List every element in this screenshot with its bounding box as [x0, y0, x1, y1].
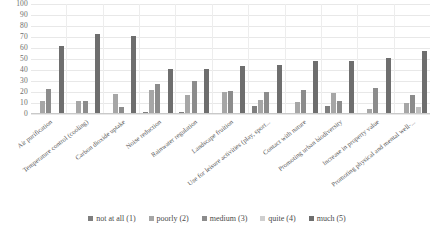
legend-label: poorly (2) [157, 214, 189, 223]
y-axis-tick-label: 50 [20, 55, 28, 63]
x-axis-label-slot: Promoting physical and mental well-... [394, 116, 430, 202]
bar [386, 58, 391, 114]
bar [59, 46, 64, 114]
legend-item[interactable]: poorly (2) [149, 214, 189, 223]
y-axis-tick-label: 90 [20, 11, 28, 19]
bar [192, 81, 197, 114]
bar [410, 95, 415, 114]
y-axis-tick-label: 20 [20, 88, 28, 96]
y-axis-tick-label: 10 [20, 99, 28, 107]
y-axis-tick-label: 100 [16, 0, 28, 8]
y-axis-tick-label: 0 [24, 110, 28, 118]
bar-chart: 1009080706050403020100 Air purificationT… [0, 0, 434, 236]
bar-group [322, 4, 358, 114]
x-axis-label-slot: Rainwater regulation [176, 116, 212, 202]
bar-group [104, 4, 140, 114]
bar [240, 66, 245, 114]
gridline [31, 114, 430, 115]
y-axis-tick-label: 30 [20, 77, 28, 85]
bar [204, 69, 209, 114]
y-axis-tick-label: 60 [20, 44, 28, 52]
bar [222, 92, 227, 114]
bar [95, 34, 100, 114]
bar [149, 90, 154, 114]
bar [185, 95, 190, 114]
bar [349, 61, 354, 114]
bar-group [31, 4, 67, 114]
x-axis-label-slot: Noise reduction [140, 116, 176, 202]
plot-area: 1009080706050403020100 [0, 4, 434, 128]
y-axis-tick-label: 40 [20, 66, 28, 74]
bar [131, 36, 136, 114]
x-axis-label-slot: Use for leisure activities (play, sport.… [249, 116, 285, 202]
plot-canvas [31, 4, 430, 114]
y-axis-tick-label: 80 [20, 22, 28, 30]
bar [168, 69, 173, 114]
bar [277, 65, 282, 115]
bar [228, 91, 233, 114]
bar [113, 94, 118, 114]
bar-group [249, 4, 285, 114]
bar-group [67, 4, 103, 114]
legend-label: medium (3) [210, 214, 248, 223]
y-axis-tick-label: 70 [20, 33, 28, 41]
legend-swatch-icon [309, 216, 314, 221]
bar [331, 93, 336, 114]
legend-label: much (5) [317, 214, 346, 223]
bar-group [140, 4, 176, 114]
chart-legend: not at all (1)poorly (2)medium (3)quite … [0, 214, 434, 223]
x-axis-label-slot: Temperature control (cooling) [67, 116, 103, 202]
legend-item[interactable]: medium (3) [202, 214, 248, 223]
bar-group [176, 4, 212, 114]
legend-label: quite (4) [268, 214, 295, 223]
bar [373, 88, 378, 114]
bar-group [395, 4, 430, 114]
bar [46, 89, 51, 114]
legend-swatch-icon [202, 216, 207, 221]
legend-swatch-icon [149, 216, 154, 221]
legend-swatch-icon [88, 216, 93, 221]
bar [264, 92, 269, 114]
bar-group [213, 4, 249, 114]
x-axis-labels: Air purificationTemperature control (coo… [31, 116, 430, 202]
bar [301, 90, 306, 114]
y-axis: 1009080706050403020100 [0, 4, 30, 114]
bar-group [286, 4, 322, 114]
bar [422, 51, 427, 114]
bar [313, 61, 318, 114]
x-axis-line [31, 113, 430, 114]
legend-item[interactable]: not at all (1) [88, 214, 135, 223]
legend-swatch-icon [260, 216, 265, 221]
legend-item[interactable]: quite (4) [260, 214, 295, 223]
bar-group [358, 4, 394, 114]
bar [155, 84, 160, 114]
bar [258, 100, 263, 114]
bar-groups [31, 4, 430, 114]
legend-label: not at all (1) [96, 214, 135, 223]
legend-item[interactable]: much (5) [309, 214, 346, 223]
x-axis-label-slot: Carbon dioxide uptake [104, 116, 140, 202]
